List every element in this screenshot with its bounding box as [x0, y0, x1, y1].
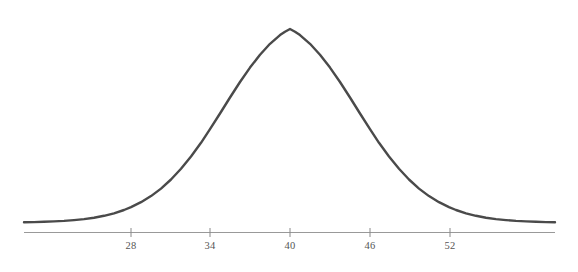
x-tick-label-46: 46: [364, 240, 375, 251]
normal-distribution-chart: 28 34 40 46 52: [0, 0, 578, 272]
x-tick-label-34: 34: [204, 240, 215, 251]
chart-canvas: [0, 0, 578, 272]
x-tick-label-28: 28: [125, 240, 136, 251]
x-tick-label-52: 52: [444, 240, 455, 251]
normal-curve: [24, 29, 555, 222]
x-tick-label-40: 40: [284, 240, 295, 251]
